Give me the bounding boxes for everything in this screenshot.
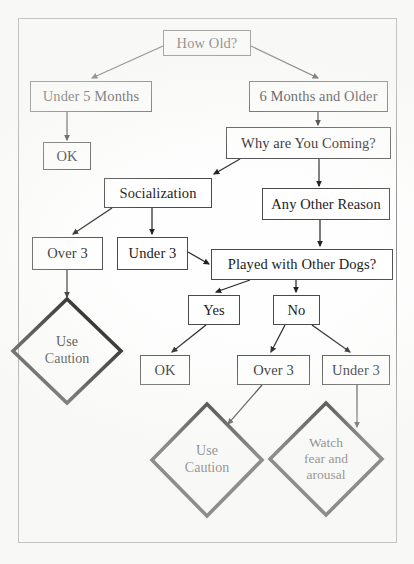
node-yes[interactable]: Yes (188, 295, 240, 325)
node-6-months-and-older-label: 6 Months and Older (256, 88, 380, 104)
terminal-use-caution-left-line-2: Caution (45, 351, 89, 368)
terminal-use-caution-left[interactable]: Use Caution (27, 330, 107, 372)
edge-under-3-to-played-with-other-dogs (188, 252, 209, 264)
node-yes-label: Yes (200, 302, 227, 318)
edge-over-3-bottom-to-use-caution-center (228, 385, 262, 424)
node-over-3-bottom-label: Over 3 (250, 362, 296, 378)
node-socialization[interactable]: Socialization (104, 178, 212, 208)
edge-no-to-under-3-bottom (312, 325, 350, 352)
edge-how-old-to-under-5-months (92, 46, 163, 78)
terminal-use-caution-left-line-1: Use (56, 334, 78, 351)
node-under-3-left-label: Under 3 (126, 245, 180, 261)
node-under-3-bottom[interactable]: Under 3 (322, 355, 390, 385)
node-under-3-left[interactable]: Under 3 (117, 237, 188, 270)
flowchart-page: How Old? Under 5 Months 6 Months and Old… (0, 0, 414, 564)
node-why-are-you-coming[interactable]: Why are You Coming? (226, 127, 391, 159)
node-no-label: No (285, 302, 309, 318)
terminal-watch-fear-and-arousal-line-1: Watch (309, 435, 343, 451)
terminal-watch-fear-and-arousal-line-2: fear and (304, 451, 348, 467)
node-ok-bottom-label: OK (151, 362, 178, 378)
edge-played-with-other-dogs-to-yes (216, 280, 250, 292)
node-socialization-label: Socialization (116, 185, 199, 201)
node-how-old[interactable]: How Old? (163, 30, 251, 56)
edge-yes-to-ok-bottom (172, 325, 206, 352)
terminal-watch-fear-and-arousal-line-3: arousal (307, 467, 346, 483)
node-over-3-left[interactable]: Over 3 (32, 237, 103, 270)
edge-no-to-over-3-bottom (271, 325, 285, 352)
terminal-watch-fear-and-arousal[interactable]: Watch fear and arousal (286, 430, 366, 488)
edge-how-old-to-6-months-and-older (251, 46, 318, 78)
edge-why-are-you-coming-to-socialization (214, 159, 240, 174)
node-6-months-and-older[interactable]: 6 Months and Older (249, 81, 388, 112)
node-over-3-bottom[interactable]: Over 3 (237, 355, 310, 385)
node-any-other-reason-label: Any Other Reason (268, 196, 384, 212)
node-why-are-you-coming-label: Why are You Coming? (238, 135, 379, 151)
node-how-old-label: How Old? (174, 35, 241, 51)
node-under-5-months-label: Under 5 Months (40, 88, 142, 104)
node-ok-top-label: OK (53, 148, 80, 164)
terminal-use-caution-center-line-2: Caution (185, 460, 229, 477)
node-ok-top[interactable]: OK (43, 142, 91, 170)
node-under-5-months[interactable]: Under 5 Months (30, 81, 152, 112)
node-under-3-bottom-label: Under 3 (329, 362, 383, 378)
node-played-with-other-dogs[interactable]: Played with Other Dogs? (211, 249, 393, 280)
node-over-3-left-label: Over 3 (44, 245, 90, 261)
node-any-other-reason[interactable]: Any Other Reason (262, 188, 390, 220)
node-ok-bottom[interactable]: OK (140, 355, 190, 385)
node-no[interactable]: No (273, 295, 320, 325)
edge-socialization-to-over-3 (73, 208, 112, 234)
node-played-with-other-dogs-label: Played with Other Dogs? (225, 256, 379, 272)
terminal-use-caution-center-line-1: Use (196, 443, 218, 460)
terminal-use-caution-center[interactable]: Use Caution (167, 439, 247, 481)
